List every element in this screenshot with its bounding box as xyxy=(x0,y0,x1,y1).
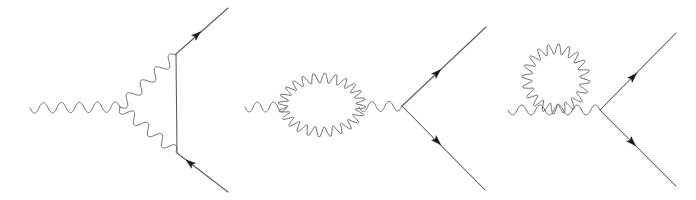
outgoing-fermion-lower-line xyxy=(402,106,485,190)
photon-tadpole-circular-loop xyxy=(522,44,590,114)
feynman-diagram-canvas xyxy=(0,0,696,200)
internal-fermion-vertical-line xyxy=(176,54,177,153)
photon-bubble-loop xyxy=(278,73,365,136)
incoming-photon-wavy-line xyxy=(30,102,120,113)
virtual-photon-upper-wavy-line xyxy=(120,54,176,108)
outgoing-fermion-lower-line xyxy=(177,153,228,192)
feynman-diagram-figure xyxy=(0,0,696,200)
outgoing-fermion-lower-line xyxy=(600,110,676,186)
outgoing-fermion-upper-line xyxy=(600,33,676,110)
virtual-photon-lower-wavy-line xyxy=(119,107,176,152)
outgoing-fermion-lower-line-arrowhead-icon xyxy=(184,157,196,168)
outgoing-fermion-upper-line xyxy=(402,27,486,106)
outgoing-fermion-upper-line xyxy=(176,8,228,54)
